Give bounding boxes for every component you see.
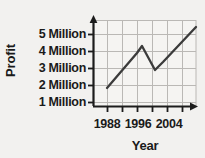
y-tick-label-4: 4 Million bbox=[24, 44, 86, 58]
y-tick-label-2: 2 Million bbox=[24, 78, 86, 92]
y-tick-labels: 5 Million 4 Million 3 Million 2 Million … bbox=[22, 0, 86, 120]
y-tick-label-3: 3 Million bbox=[24, 61, 86, 75]
x-tick-label-1996: 1996 bbox=[121, 117, 155, 131]
x-tick-labels: 1988 1996 2004 bbox=[0, 117, 205, 135]
y-tick-label-5: 5 Million bbox=[24, 27, 86, 41]
y-tick-label-1: 1 Million bbox=[24, 95, 86, 109]
line-chart: 5 Million 4 Million 3 Million 2 Million … bbox=[0, 0, 205, 158]
y-axis-arrow bbox=[90, 15, 98, 23]
plot-background bbox=[93, 20, 196, 106]
x-tick-label-1988: 1988 bbox=[90, 117, 124, 131]
y-axis-title: Profit bbox=[3, 38, 18, 84]
x-tick-label-2004: 2004 bbox=[152, 117, 186, 131]
x-axis-title: Year bbox=[108, 138, 182, 153]
